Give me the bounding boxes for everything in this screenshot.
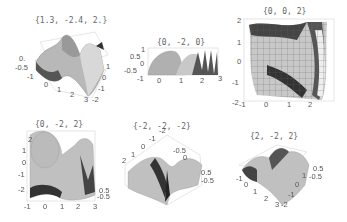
plot-panel-5: {-2, -2, -2} [110,110,230,222]
tick: -0.5 [124,67,137,75]
tick: 0 [157,77,161,85]
tick: 1 [302,172,306,180]
surface-plot [110,110,230,222]
tick: -1 [232,79,239,87]
tick: 2 [122,157,126,165]
tick: -0.5 [15,64,28,72]
tick: 1 [131,151,135,159]
tick: 1 [60,203,64,211]
tick: -2 [18,186,25,194]
plot-panel-4: {0, -2, 2} 2 [0,110,115,222]
tick: -1 [18,171,25,179]
tick: -2 [281,201,288,209]
tick: 0 [22,159,26,167]
tick: 3 [93,203,97,211]
tick: 0.5 [130,53,140,61]
plot-panel-3: {0, 0, 2} 2 1 0 -1 -2 -1 0 1 2 [227,0,347,110]
tick: 1 [237,39,241,47]
tick: 2 [70,91,74,99]
tick: 1 [141,46,145,54]
plot-panel-1: {1.3, -2.4, 2.} 0. -0.5 -1 0 1 2 3 -2 -1… [0,0,115,110]
tick: 2 [76,203,80,211]
tick: -2 [159,127,166,135]
tick: 3 [84,96,88,104]
tick: 1 [179,77,183,85]
plot-panel-2: {0, -2, 0} 1 0.5 0 -0.5 -1 0 1 2 3 [110,0,230,110]
tick: -1 [98,85,105,93]
tick: 2 [264,195,268,203]
tick: 0 [102,74,106,82]
tick: -1 [149,135,156,143]
tick: 0 [140,60,144,68]
tick: 0 [183,154,187,162]
tick: 2 [237,17,241,25]
tick: -2 [232,99,239,107]
tick: 3 [275,201,279,209]
tick: 2 [308,101,312,109]
tick: -0.5 [97,193,110,201]
tick: 0 [264,101,268,109]
tick: -2 [92,96,99,104]
tick: 0 [295,181,299,189]
tick: 1 [57,86,61,94]
surface-plot [0,110,115,222]
tick: 1 [253,188,257,196]
tick: -1 [239,101,246,109]
surface-plot [110,0,230,110]
tick: -1 [137,75,144,83]
tick: 2 [28,136,32,144]
tick: 0 [43,203,47,211]
tick: 0. [19,55,25,63]
tick: -0.5 [309,173,322,181]
tick: -1 [288,191,295,199]
tick: 1 [287,101,291,109]
tick: -1 [24,203,31,211]
tick: 0 [44,81,48,89]
tick: 1 [22,147,26,155]
tick: 0 [244,181,248,189]
tick: 3 [218,75,222,83]
tick: 0 [237,58,241,66]
tick: -1 [236,175,243,183]
surface-plot [227,0,347,110]
tick: -1 [27,73,34,81]
tick: -0.5 [201,177,214,185]
tick: 2 [200,77,204,85]
tick: 0 [141,143,145,151]
